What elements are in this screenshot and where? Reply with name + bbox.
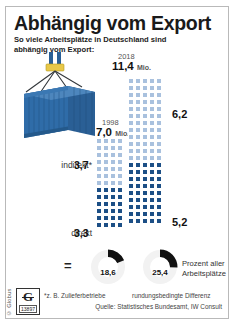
total-2018-unit: Mio. [137, 64, 151, 71]
pictogram-cell-indirekt [110, 166, 116, 172]
pictogram-cell-direkt [96, 187, 102, 193]
pictogram-row [128, 85, 163, 92]
globus-logo: G 13897 [16, 288, 40, 315]
pictogram-cell-indirekt [96, 159, 102, 165]
pictogram-cell-indirekt [149, 92, 155, 98]
infographic-root: Abhängig vom Export So viele Arbeitsplät… [0, 0, 235, 326]
pictogram-cell-indirekt [142, 85, 148, 91]
pictogram-cell-indirekt [149, 141, 155, 147]
pictogram-cell-indirekt [96, 180, 102, 186]
pictogram-cell-direkt [156, 169, 162, 175]
total-2018-value: 11,4 [112, 60, 134, 72]
pictogram-cell-indirekt [110, 173, 116, 179]
pictogram-cell-indirekt [149, 78, 155, 84]
pictogram-row [128, 78, 163, 85]
pictogram-cell-indirekt [149, 127, 155, 133]
donut-share-1998-value: 18,6 [84, 268, 132, 277]
total-1998: 7,0 Mio. [96, 126, 129, 138]
pictogram-cell-direkt [103, 208, 109, 214]
pictogram-row [96, 194, 124, 201]
donut-share-2018: 25,4 [136, 248, 184, 286]
pictogram-cell-indirekt [142, 134, 148, 140]
pictogram-cell-direkt [110, 201, 116, 207]
pictogram-cell-indirekt [117, 152, 123, 158]
pictogram-cell-indirekt [156, 92, 162, 98]
pictogram-cell-indirekt [128, 134, 134, 140]
pictogram-cell-indirekt [135, 99, 141, 105]
direkt-1998-value: 3,3 [74, 227, 89, 239]
pictogram-cell-direkt [142, 218, 148, 224]
pictogram-cell-indirekt [149, 85, 155, 91]
pictogram-cell-indirekt [149, 99, 155, 105]
globus-logo-mark: G [23, 289, 33, 304]
pictogram-row [96, 138, 124, 145]
pictogram-cell-direkt [142, 183, 148, 189]
pictogram-cell-indirekt [103, 145, 109, 151]
pictogram-cell-indirekt [156, 134, 162, 140]
pictogram-cell-indirekt [156, 78, 162, 84]
pictogram-cell-direkt [142, 197, 148, 203]
pictogram-cell-direkt [156, 183, 162, 189]
pictogram-cell-indirekt [142, 78, 148, 84]
total-2018: 11,4 Mio. [112, 60, 151, 72]
pictogram-cell-indirekt [149, 148, 155, 154]
pictogram-cell-indirekt [135, 141, 141, 147]
pictogram-cell-indirekt [156, 85, 162, 91]
pictogram-cell-indirekt [128, 92, 134, 98]
pictogram-row [128, 113, 163, 120]
globus-logo-number: 13897 [19, 305, 37, 313]
pictogram-cell-direkt [149, 190, 155, 196]
pictogram-cell-direkt [135, 190, 141, 196]
pictogram-cell-indirekt [103, 173, 109, 179]
indirekt-2018-value: 6,2 [172, 108, 187, 120]
pictogram-cell-direkt [149, 197, 155, 203]
pictogram-cell-indirekt [128, 106, 134, 112]
pictogram-cell-direkt [117, 187, 123, 193]
pictogram-row [96, 201, 124, 208]
pictogram-cell-indirekt [128, 99, 134, 105]
pictogram-row [128, 218, 163, 225]
pictogram-cell-direkt [156, 190, 162, 196]
indirekt-1998-value: 3,7 [74, 159, 89, 171]
pictogram-cell-indirekt [156, 148, 162, 154]
pictogram-cell-indirekt [128, 113, 134, 119]
pictogram-cell-direkt [128, 190, 134, 196]
percent-caption: Prozent aller Arbeitsplätze [182, 259, 235, 278]
pictogram-row [128, 134, 163, 141]
shipping-container-crane-icon [16, 52, 100, 152]
pictogram-cell-indirekt [110, 159, 116, 165]
pictogram-cell-direkt [96, 222, 102, 228]
pictogram-cell-indirekt [117, 145, 123, 151]
pictogram-cell-direkt [96, 208, 102, 214]
pictogram-cell-direkt [149, 204, 155, 210]
pictogram-row [96, 173, 124, 180]
pictogram-cell-indirekt [156, 155, 162, 161]
pictogram-row [96, 180, 124, 187]
pictogram-cell-direkt [135, 204, 141, 210]
pictogram-cell-indirekt [103, 180, 109, 186]
pictogram-cell-direkt [156, 197, 162, 203]
pictogram-cell-direkt [117, 222, 123, 228]
pictogram-cell-direkt [128, 218, 134, 224]
pictogram-cell-direkt [149, 162, 155, 168]
pictogram-row [96, 166, 124, 173]
pictogram-cell-indirekt [96, 152, 102, 158]
pictogram-cell-indirekt [142, 155, 148, 161]
pictogram-cell-indirekt [142, 113, 148, 119]
pictogram-cell-indirekt [135, 106, 141, 112]
pictogram-cell-indirekt [156, 106, 162, 112]
pictogram-cell-direkt [110, 222, 116, 228]
pictogram-row [128, 162, 163, 169]
pictogram-cell-direkt [142, 176, 148, 182]
direkt-2018-value: 5,2 [172, 216, 187, 228]
pictogram-row [128, 190, 163, 197]
pictogram-cell-indirekt [135, 85, 141, 91]
pictogram-cell-indirekt [135, 148, 141, 154]
pictogram-cell-direkt [149, 211, 155, 217]
pictogram-row [128, 120, 163, 127]
pictogram-cell-direkt [135, 218, 141, 224]
total-1998-value: 7,0 [96, 126, 112, 138]
pictogram-row [128, 211, 163, 218]
pictogram-row [96, 208, 124, 215]
pictogram-cell-indirekt [149, 134, 155, 140]
